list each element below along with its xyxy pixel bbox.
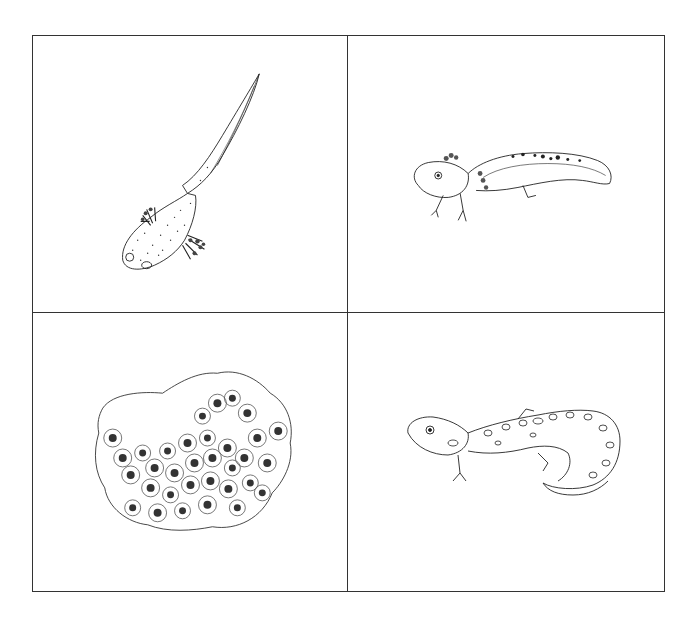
juvenile-illustration [348,36,664,312]
adult-illustration [348,313,664,591]
panel-larva: larva [33,36,348,313]
life-cycle-grid: larva [32,35,665,592]
panel-adult: adult [348,313,664,591]
panel-juvenile: juvenile [348,36,664,313]
panel-egg-mass: egg-mass [33,313,348,591]
larva-illustration [33,36,347,312]
egg-mass-illustration [33,313,347,591]
